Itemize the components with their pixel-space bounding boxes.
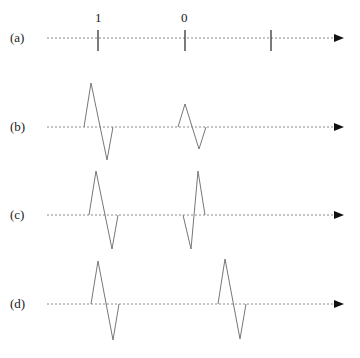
row-label-c: (c)	[10, 207, 24, 223]
diagram-canvas	[0, 0, 360, 358]
arrow-icon	[334, 34, 344, 42]
row-label-a: (a)	[10, 30, 24, 46]
pulse-d2	[218, 259, 246, 339]
arrow-icon	[334, 300, 344, 308]
signal-diagram: 1 0 (a) (b) (c) (d)	[0, 0, 360, 358]
row-label-b: (b)	[10, 119, 25, 135]
row-label-d: (d)	[10, 296, 25, 312]
pulse-b2	[178, 104, 206, 149]
pulse-d1	[91, 261, 119, 340]
arrow-icon	[334, 123, 344, 131]
pulse-c1	[89, 171, 118, 249]
tick-label-0: 0	[181, 10, 188, 26]
pulse-b1	[84, 83, 113, 160]
arrow-icon	[334, 211, 344, 219]
pulse-c2	[183, 171, 205, 249]
tick-label-1: 1	[95, 10, 102, 26]
